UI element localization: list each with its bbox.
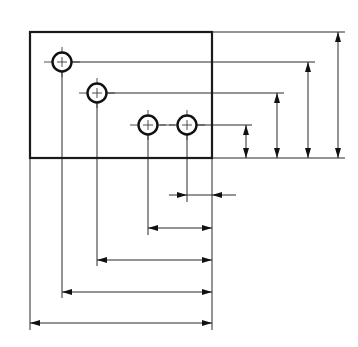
- dim-v-hole-1-arrow-bottom: [305, 148, 311, 158]
- dim-h-overall-arrow-right: [202, 320, 212, 326]
- rectangular-plate: [30, 32, 212, 158]
- dim-v-overall-arrow-bottom: [335, 148, 341, 158]
- dim-v-hole-2-arrow-top: [274, 93, 280, 103]
- dim-h-hole-2-arrow-right: [202, 257, 212, 263]
- dim-v-hole-1-arrow-top: [305, 62, 311, 72]
- dim-h-hole-2-arrow-left: [97, 257, 107, 263]
- dim-h-hole-1-arrow-right: [202, 289, 212, 295]
- technical-drawing: [0, 0, 358, 347]
- dim-h-hole-3-arrow-left: [148, 225, 158, 231]
- dim-h-hole-3-arrow-right: [202, 225, 212, 231]
- dim-h-hole-4-arrow-left: [177, 192, 187, 198]
- dim-h-hole-4-arrow-right: [212, 192, 222, 198]
- extension-lines: [30, 32, 345, 330]
- dim-v-overall-arrow-top: [335, 32, 341, 42]
- dim-h-hole-1-arrow-left: [62, 289, 72, 295]
- dim-h-overall-arrow-left: [30, 320, 40, 326]
- dim-v-hole-3-4-arrow-bottom: [243, 148, 249, 158]
- dim-v-hole-2-arrow-bottom: [274, 148, 280, 158]
- dim-v-hole-3-4-arrow-top: [243, 125, 249, 135]
- dimension-lines: [30, 32, 341, 326]
